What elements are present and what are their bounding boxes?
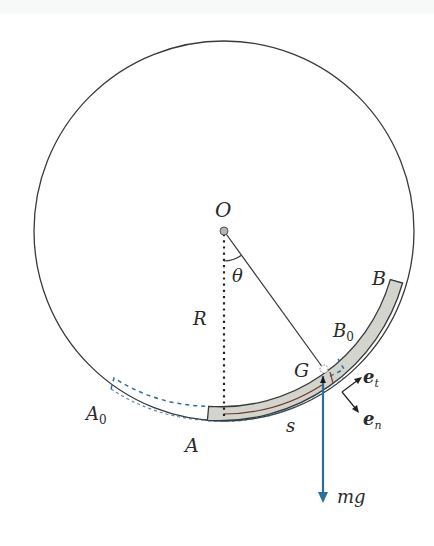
label-b0: B0 <box>332 320 354 344</box>
tangent-vector-shaft <box>342 380 358 392</box>
diagram-canvas: O θ R B B0 G et en s A A0 mg <box>0 0 434 546</box>
label-r: R <box>192 308 207 329</box>
normal-vector-shaft <box>342 392 356 409</box>
label-en: en <box>363 408 382 432</box>
label-a0: A0 <box>84 403 107 427</box>
label-a: A <box>183 434 199 456</box>
tangent-vector-head <box>354 377 362 384</box>
curved-bar <box>207 280 402 421</box>
label-mg: mg <box>337 486 366 507</box>
label-o: O <box>215 198 231 222</box>
weight-arrow-head <box>318 492 328 503</box>
label-et: et <box>363 366 379 390</box>
centroid-marker <box>320 365 328 373</box>
o-to-g-line <box>224 231 323 368</box>
label-s: s <box>286 415 295 436</box>
label-b: B <box>371 267 386 289</box>
label-g: G <box>294 359 309 381</box>
label-theta: θ <box>232 265 243 286</box>
center-point <box>220 227 228 235</box>
theta-arc <box>224 255 242 261</box>
